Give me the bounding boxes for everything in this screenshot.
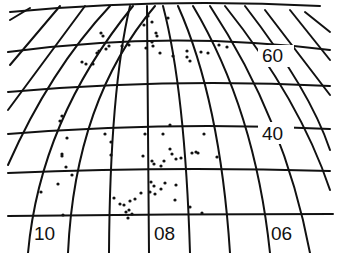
star-chart: 60 40 10 08 06 — [0, 0, 337, 253]
star-point — [143, 132, 146, 135]
star-point — [174, 157, 177, 160]
star-point — [163, 181, 166, 184]
star-point — [99, 31, 102, 34]
star-point — [170, 152, 173, 155]
star-point — [133, 197, 136, 200]
declination-label-40: 40 — [262, 123, 283, 144]
star-point — [149, 180, 152, 183]
star-point — [174, 183, 177, 186]
star-point — [39, 190, 42, 193]
meridian-line — [225, 6, 330, 190]
star-point — [150, 159, 153, 162]
star-point — [152, 184, 155, 187]
star-point — [168, 147, 171, 150]
star-point — [185, 49, 188, 52]
ra-label-08: 08 — [154, 223, 175, 244]
star-point — [162, 159, 165, 162]
star-point — [118, 202, 121, 205]
star-point — [124, 210, 127, 213]
star-point — [159, 187, 162, 190]
star-point — [152, 162, 155, 165]
star-point — [104, 47, 107, 50]
star-point — [168, 123, 171, 126]
star-point — [206, 51, 209, 54]
star-point — [188, 205, 191, 208]
star-point — [146, 14, 149, 17]
star-point — [109, 153, 112, 156]
star-point — [171, 54, 174, 57]
star-point — [112, 196, 115, 199]
star-point — [142, 23, 145, 26]
star-point — [141, 154, 144, 157]
star-point — [155, 34, 158, 37]
meridian-line — [305, 12, 330, 32]
meridian-line — [10, 8, 30, 20]
star-point — [190, 151, 193, 154]
star-point — [166, 16, 169, 19]
star-point — [179, 156, 182, 159]
star-point — [161, 132, 164, 135]
star-point — [215, 155, 218, 158]
star-point — [185, 55, 188, 58]
star-point — [60, 114, 63, 117]
star-point — [70, 173, 73, 176]
star-point — [91, 62, 94, 65]
star-point — [150, 40, 153, 43]
star-point — [64, 165, 67, 168]
star-point — [60, 154, 63, 157]
star-point — [159, 164, 162, 167]
star-point — [80, 60, 83, 63]
star-point — [97, 49, 100, 52]
map-canvas: 60 40 10 08 06 — [0, 0, 337, 253]
star-point — [109, 140, 112, 143]
star-point — [150, 20, 153, 23]
ra-label-06: 06 — [271, 223, 292, 244]
star-point — [144, 46, 147, 49]
star-point — [225, 45, 228, 48]
star-point — [158, 51, 161, 54]
star-point — [151, 44, 154, 47]
star-point — [127, 43, 130, 46]
ra-label-10: 10 — [34, 223, 55, 244]
meridian-line — [163, 6, 190, 253]
star-point — [126, 216, 129, 219]
star-point — [196, 151, 199, 154]
star-point — [139, 191, 142, 194]
star-point — [217, 43, 220, 46]
star-point — [56, 182, 59, 185]
parallel-line — [8, 169, 330, 173]
star-point — [61, 213, 64, 216]
meridian-line — [178, 6, 230, 253]
star-point — [202, 132, 205, 135]
star-point — [130, 212, 133, 215]
star-point — [148, 190, 151, 193]
star-point — [153, 192, 156, 195]
star-point — [188, 59, 191, 62]
star-point — [128, 199, 131, 202]
star-point — [200, 211, 203, 214]
meridian-line — [147, 6, 149, 253]
star-point — [101, 34, 104, 37]
star-point — [103, 132, 106, 135]
parallel-line — [8, 214, 333, 216]
star-point — [120, 44, 123, 47]
star-point — [107, 44, 110, 47]
star-point — [127, 208, 130, 211]
meridian-line — [290, 10, 330, 60]
star-point — [154, 31, 157, 34]
star-point — [65, 136, 68, 139]
star-point — [122, 203, 125, 206]
declination-label-60: 60 — [262, 45, 283, 66]
star-point — [173, 198, 176, 201]
star-point — [84, 62, 87, 65]
star-point — [58, 119, 61, 122]
star-point — [199, 50, 202, 53]
